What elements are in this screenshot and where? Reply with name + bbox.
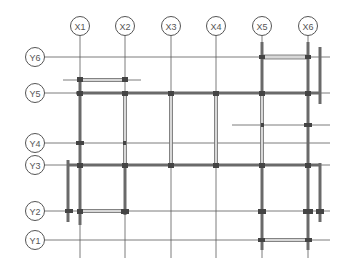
- row-bubble-y3: Y3: [26, 156, 45, 175]
- row-bubble-y4: Y4: [26, 134, 45, 153]
- row-bubble-y6: Y6: [26, 48, 45, 67]
- vertical-grid-lines: [80, 35, 308, 258]
- structural-beams: [63, 42, 330, 250]
- column-bubble-x5: X5: [253, 17, 272, 36]
- column-bubbles: X1 X2 X3 X4 X5 X6: [71, 17, 318, 36]
- column-label-x5: X5: [256, 22, 267, 32]
- row-label-y6: Y6: [29, 53, 40, 63]
- row-label-y4: Y4: [29, 139, 40, 149]
- row-bubble-y2: Y2: [26, 202, 45, 221]
- column-bubble-x3: X3: [162, 17, 181, 36]
- row-bubble-y5: Y5: [26, 84, 45, 103]
- column-label-x2: X2: [119, 22, 130, 32]
- connection-nodes: [65, 55, 324, 242]
- row-bubbles: Y6 Y5 Y4 Y3 Y2 Y1: [26, 48, 45, 250]
- column-label-x4: X4: [210, 22, 221, 32]
- column-bubble-x2: X2: [116, 17, 135, 36]
- column-label-x6: X6: [302, 22, 313, 32]
- column-bubble-x6: X6: [299, 17, 318, 36]
- row-label-y1: Y1: [29, 236, 40, 246]
- row-bubble-y1: Y1: [26, 231, 45, 250]
- grid-plan-canvas: X1 X2 X3 X4 X5 X6 Y6 Y5: [0, 0, 351, 270]
- column-label-x1: X1: [74, 22, 85, 32]
- row-label-y5: Y5: [29, 89, 40, 99]
- column-label-x3: X3: [165, 22, 176, 32]
- column-bubble-x1: X1: [71, 17, 90, 36]
- row-label-y3: Y3: [29, 161, 40, 171]
- row-label-y2: Y2: [29, 207, 40, 217]
- column-bubble-x4: X4: [207, 17, 226, 36]
